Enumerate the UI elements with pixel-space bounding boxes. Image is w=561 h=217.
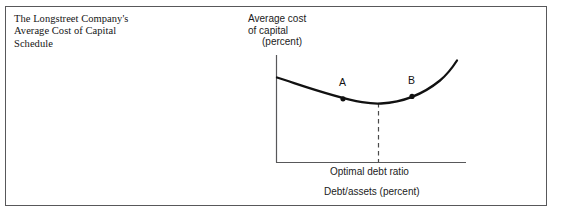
average-cost-of-capital-curve	[277, 61, 457, 104]
exhibit-figure: The Longstreet Company's Average Cost of…	[0, 0, 561, 217]
chart-plot-area	[0, 0, 561, 217]
data-point-b	[409, 94, 414, 99]
data-point-a	[340, 96, 345, 101]
